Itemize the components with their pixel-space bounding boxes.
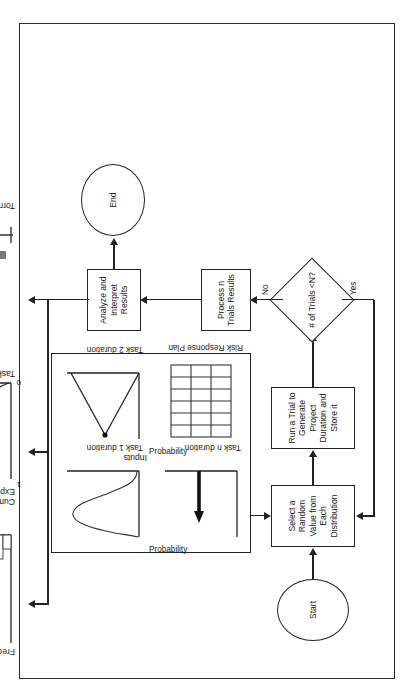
results-bus-branch-1-arrow <box>28 600 35 608</box>
node-start-label: Start <box>307 600 317 618</box>
output-chart-cumulative-distribution <box>0 373 17 493</box>
edge-select-to-trial-arrow <box>308 450 316 457</box>
node-analyze-results[interactable]: Analyze and Interpret Results <box>87 269 141 331</box>
output-chart-cumulative-caption: Cumulative Distribution with Expected Va… <box>0 486 15 507</box>
edge-inputs-to-select-arrow <box>264 511 271 519</box>
output-chart-cumulative-xaxis: Task 1 duration <box>0 368 15 378</box>
edge-no-up <box>257 299 283 301</box>
node-select-random-value-label: Select a Random Value from Each Distribu… <box>286 489 338 543</box>
edge-inputs-to-select <box>251 515 265 517</box>
node-end[interactable]: End <box>81 164 145 236</box>
risk-response-plan-grid <box>165 357 239 443</box>
mini-chart-risk-response-caption: Risk Response Plan <box>168 343 243 353</box>
edge-start-to-select-arrow <box>308 548 316 555</box>
edge-label-no: No <box>261 284 270 294</box>
cumulative-curve <box>0 373 17 493</box>
mini-chart-risk-response-plan <box>165 357 239 443</box>
diagram-page: Start Select a Random Value from Each Di… <box>0 0 417 697</box>
node-process-results-label: Process n Trials Results <box>215 273 236 327</box>
node-analyze-results-label: Analyze and Interpret Results <box>98 273 129 327</box>
edge-yes-arrow <box>356 512 363 520</box>
output-chart-tornado <box>0 215 17 335</box>
output-chart-frequency-distribution <box>0 529 17 649</box>
mini-chart-task2-duration <box>61 359 145 445</box>
edge-yes-up <box>363 515 374 517</box>
output-chart-frequency-caption: Frequency Distribution <box>0 646 15 656</box>
diagram-canvas: Start Select a Random Value from Each Di… <box>19 19 399 679</box>
cumulative-ytick-bottom: 0 <box>16 378 20 387</box>
edge-analyze-to-end-arrow <box>109 238 117 245</box>
node-run-trial-label: Run a Trial to Generate Project Duration… <box>286 391 338 445</box>
mini-chart-taskn-caption: Task n duration <box>184 443 240 453</box>
results-bus-branch-2 <box>35 451 48 453</box>
edge-analyze-to-end <box>113 243 115 269</box>
edge-process-to-analyze <box>147 299 201 301</box>
node-run-trial[interactable]: Run a Trial to Generate Project Duration… <box>271 387 355 449</box>
node-process-results[interactable]: Process n Trials Results <box>201 269 251 331</box>
task2-triangular-curve <box>61 359 145 445</box>
tornado-bars <box>0 215 17 335</box>
edge-start-to-select <box>312 553 314 579</box>
edge-label-yes: Yes <box>349 281 358 294</box>
cumulative-ytick-top: 1 <box>16 480 20 489</box>
results-bus-branch-2-arrow <box>28 448 35 456</box>
results-bus-branch-1 <box>35 603 48 605</box>
edge-select-to-trial <box>312 455 314 485</box>
edge-yes-down <box>342 299 374 301</box>
results-bus-riser <box>47 299 89 301</box>
mini-chart-taskn-duration <box>159 457 243 543</box>
taskn-point-estimate <box>159 457 243 543</box>
frequency-histogram <box>0 529 17 649</box>
output-chart-tornado-caption: Tornado Chart <box>0 200 15 210</box>
task1-normal-curve <box>61 457 145 543</box>
mini-chart-task1-duration <box>61 457 145 543</box>
node-end-label: End <box>107 192 117 207</box>
results-bus-branch-3 <box>35 299 48 301</box>
mini-chart-task1-yaxis: Probability <box>149 545 187 554</box>
node-select-random-value[interactable]: Select a Random Value from Each Distribu… <box>271 485 355 547</box>
edge-trial-to-decision <box>312 339 314 387</box>
results-bus-branch-3-arrow <box>28 295 35 303</box>
mini-chart-task2-yaxis: Probability <box>149 447 187 456</box>
edge-yes-left <box>373 300 375 517</box>
mini-chart-task2-caption: Task 2 duration <box>86 345 142 355</box>
node-start[interactable]: Start <box>277 579 349 641</box>
rotation-wrapper: Start Select a Random Value from Each Di… <box>0 0 417 697</box>
